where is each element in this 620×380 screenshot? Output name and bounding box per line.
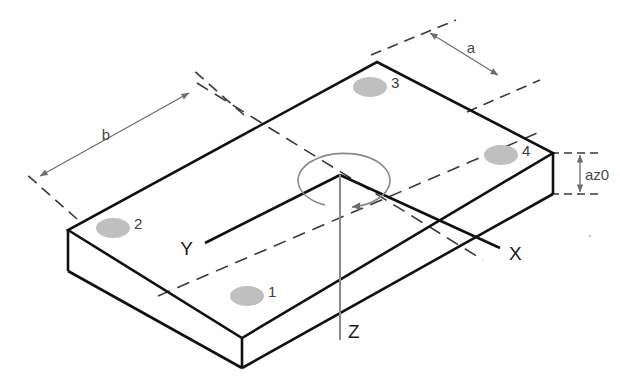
- marker-1-label: 1: [268, 283, 276, 300]
- marker-3-dot: [353, 77, 387, 97]
- marker-2-label: 2: [134, 215, 142, 232]
- dimension-b-arrow-line: [40, 93, 189, 176]
- dimension-b-label: b: [102, 126, 110, 143]
- y-axis-label: Y: [180, 238, 193, 259]
- scan-artifact-dot: [589, 235, 592, 238]
- dimension-az0-label: az0: [585, 166, 609, 183]
- dimension-a-extension-left: [371, 20, 456, 55]
- dimension-az0: az0: [551, 153, 609, 194]
- marker-4-label: 4: [522, 142, 530, 159]
- slab-diagram-figure: b a az0: [0, 0, 620, 380]
- dimension-a-arrow-line: [430, 33, 498, 75]
- x-axis-label: X: [509, 243, 522, 264]
- marker-1-dot: [230, 286, 264, 306]
- dimension-b-extension-lower: [25, 173, 77, 219]
- marker-4-dot: [484, 145, 518, 165]
- dimension-a-label: a: [467, 39, 476, 56]
- marker-2-dot: [96, 218, 130, 238]
- dimension-a-extension-right: [467, 80, 540, 112]
- z-axis-label: Z: [348, 321, 360, 342]
- diagram-canvas: b a az0: [0, 0, 620, 380]
- marker-3-label: 3: [391, 74, 399, 91]
